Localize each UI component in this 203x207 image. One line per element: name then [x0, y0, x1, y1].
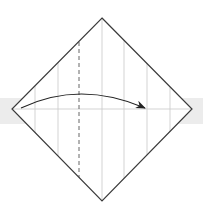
origami-diagram [0, 0, 203, 207]
